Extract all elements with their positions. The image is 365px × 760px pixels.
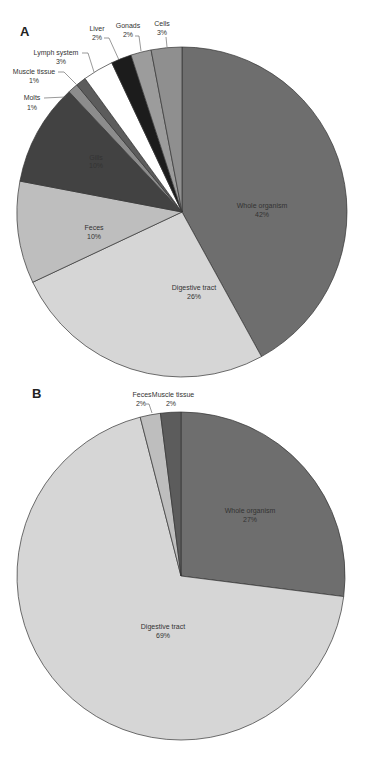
label-lymph-system-a: Lymph system <box>34 49 79 57</box>
label-muscle-tissue-b: Muscle tissue <box>152 391 195 398</box>
value-digestive-tract-a: 26% <box>187 293 201 300</box>
pie-charts: Whole organism 42% Digestive tract 26% F… <box>0 0 365 760</box>
value-feces-b: 2% <box>136 400 146 407</box>
value-lymph-system-a: 3% <box>56 58 66 65</box>
pie-chart-a <box>17 47 347 377</box>
pie-chart-b <box>17 412 345 740</box>
label-whole-organism-b: Whole organism <box>225 507 276 515</box>
value-muscle-tissue-a: 1% <box>29 77 39 84</box>
value-muscle-tissue-b: 2% <box>166 400 176 407</box>
label-liver-a: Liver <box>89 25 105 32</box>
pie-slice-whole-organism <box>181 412 345 597</box>
value-molts-a: 1% <box>27 104 37 111</box>
value-digestive-tract-b: 69% <box>156 632 170 639</box>
label-digestive-tract-b: Digestive tract <box>141 623 185 631</box>
value-cells-a: 3% <box>157 29 167 36</box>
label-cells-a: Cells <box>154 20 170 27</box>
label-feces-b: Feces <box>132 391 152 398</box>
label-gonads-a: Gonads <box>116 22 141 29</box>
value-liver-a: 2% <box>92 34 102 41</box>
value-gills-a: 10% <box>89 162 103 169</box>
label-gills-a: Gills <box>89 154 103 161</box>
value-feces-a: 10% <box>87 233 101 240</box>
label-feces-a: Feces <box>84 224 104 231</box>
label-whole-organism-a: Whole organism <box>237 202 288 210</box>
label-digestive-tract-a: Digestive tract <box>172 284 216 292</box>
label-muscle-tissue-a: Muscle tissue <box>13 68 56 75</box>
label-molts-a: Molts <box>24 94 41 101</box>
value-whole-organism-b: 27% <box>243 516 257 523</box>
value-whole-organism-a: 42% <box>255 211 269 218</box>
value-gonads-a: 2% <box>123 31 133 38</box>
